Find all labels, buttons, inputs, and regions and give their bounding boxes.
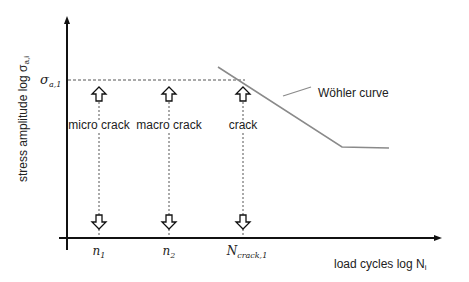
- arrow-up-icon: [236, 87, 250, 101]
- stage-macro-crack: macro crack n2: [136, 87, 202, 260]
- arrow-up-icon: [92, 87, 106, 101]
- y-axis-label: stress amplitude log σa,i: [16, 56, 31, 182]
- arrow-down-icon: [162, 215, 176, 229]
- stage-crack: crack Ncrack,1: [226, 87, 268, 260]
- stage-label: macro crack: [136, 118, 202, 132]
- svg-text:stress amplitude log σa,i: stress amplitude log σa,i: [16, 56, 31, 182]
- x-tick-label: Ncrack,1: [226, 244, 268, 260]
- arrow-down-icon: [92, 215, 106, 229]
- x-tick-label: n1: [93, 244, 106, 260]
- woehler-curve-label: Wöhler curve: [318, 86, 389, 100]
- x-axis-label: load cycles log Ni: [334, 257, 427, 272]
- sigma-a1-label: σa,1: [40, 72, 61, 89]
- arrow-down-icon: [236, 215, 250, 229]
- woehler-diagram: stress amplitude log σa,i load cycles lo…: [0, 0, 469, 282]
- arrow-up-icon: [162, 87, 176, 101]
- woehler-curve: [218, 67, 389, 148]
- stage-label: crack: [229, 118, 259, 132]
- x-tick-label: n2: [163, 244, 176, 260]
- curve-leader-line: [283, 87, 311, 96]
- stage-label: micro crack: [68, 118, 130, 132]
- stage-micro-crack: micro crack n1: [68, 87, 130, 260]
